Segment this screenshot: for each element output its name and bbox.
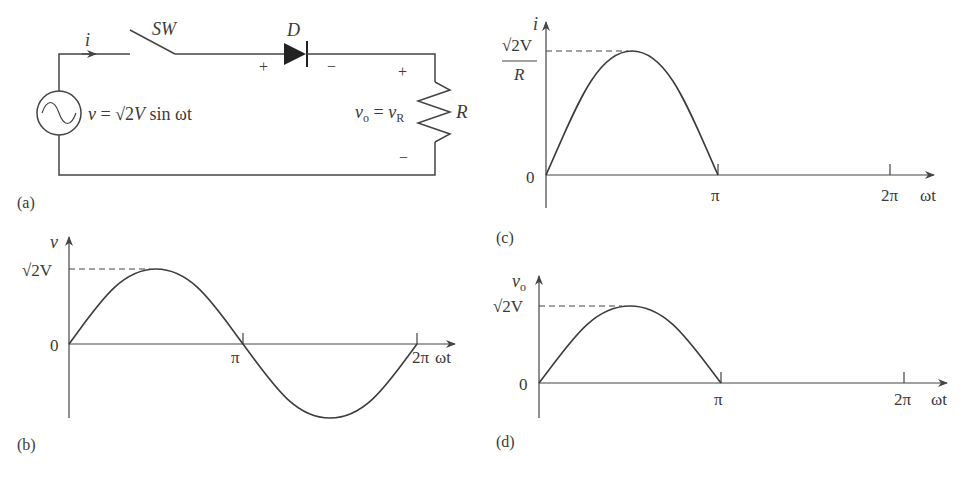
resistor-icon xyxy=(418,82,450,142)
diode-minus-sign: − xyxy=(327,58,336,75)
current-label: i xyxy=(85,30,90,50)
pi-label: π xyxy=(714,390,723,409)
diode-label: D xyxy=(286,20,300,40)
two-pi-label: 2π xyxy=(412,348,430,367)
diode-plus-sign: + xyxy=(259,58,268,75)
zero-label: 0 xyxy=(526,168,535,187)
chart-source-voltage: v √2V 0 π 2π ωt (b) xyxy=(17,232,455,454)
pi-label: π xyxy=(231,348,240,367)
circuit-diagram: i SW D + − R + − vo = vR v = √2V sin ωt … xyxy=(17,19,468,212)
two-pi-label: 2π xyxy=(894,390,912,409)
y-axis-label: vo xyxy=(512,271,526,294)
resistor-plus-sign: + xyxy=(398,63,407,80)
diode-icon xyxy=(284,43,306,65)
half-sine-curve xyxy=(539,306,721,383)
y-axis-label: i xyxy=(533,14,538,34)
figure-canvas: i SW D + − R + − vo = vR v = √2V sin ωt … xyxy=(0,0,975,484)
peak-label: √2V xyxy=(22,261,53,280)
half-sine-curve xyxy=(546,51,718,175)
wire-left-top xyxy=(59,54,130,91)
sine-wave-icon xyxy=(42,103,76,124)
zero-label: 0 xyxy=(519,375,528,394)
zero-label: 0 xyxy=(50,336,59,355)
peak-denominator: R xyxy=(513,65,525,84)
peak-label: √2V xyxy=(493,297,524,316)
panel-d-label: (d) xyxy=(496,433,515,451)
two-pi-label: 2π xyxy=(881,186,899,205)
panel-c-label: (c) xyxy=(496,229,514,247)
y-axis-label: v xyxy=(50,232,58,252)
chart-current: i √2V R 0 π 2π ωt (c) xyxy=(496,14,936,247)
panel-a-label: (a) xyxy=(17,194,35,212)
x-axis-label: ωt xyxy=(435,348,451,367)
x-axis-label: ωt xyxy=(931,390,947,409)
x-axis-label: ωt xyxy=(920,186,936,205)
chart-output-voltage: vo √2V 0 π 2π ωt (d) xyxy=(493,271,947,451)
peak-numerator: √2V xyxy=(502,36,533,55)
resistor-minus-sign: − xyxy=(399,149,408,166)
resistor-label: R xyxy=(455,101,468,122)
panel-b-label: (b) xyxy=(17,436,36,454)
wire-bottom xyxy=(59,135,435,175)
pi-label: π xyxy=(711,186,720,205)
output-voltage-label: vo = vR xyxy=(355,102,404,125)
source-equation: v = √2V sin ωt xyxy=(88,104,192,124)
switch-label: SW xyxy=(152,19,178,39)
